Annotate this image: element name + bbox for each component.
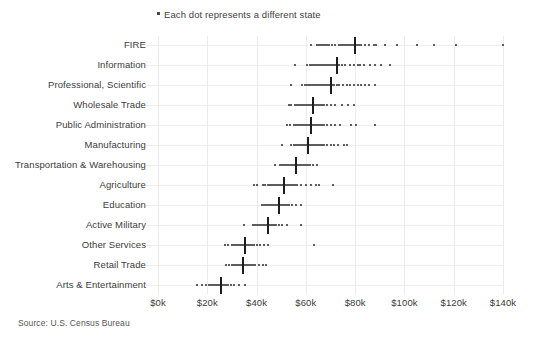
x-axis-label: $140k	[490, 297, 516, 308]
x-gridline	[503, 36, 504, 294]
data-point	[433, 44, 435, 46]
y-axis-label: Public Administration	[0, 119, 146, 130]
median-marker	[310, 117, 312, 134]
y-axis-label: Wholesale Trade	[0, 99, 146, 110]
x-axis-label: $80k	[345, 297, 366, 308]
data-point	[265, 264, 267, 266]
data-point	[230, 284, 232, 286]
data-point	[364, 44, 366, 46]
data-point	[313, 244, 315, 246]
data-point	[254, 264, 256, 266]
data-point	[333, 144, 335, 146]
data-point	[355, 124, 357, 126]
data-point	[309, 164, 311, 166]
median-marker	[312, 97, 314, 114]
data-point	[349, 84, 351, 86]
data-point	[291, 204, 293, 206]
data-point	[300, 204, 302, 206]
median-marker	[330, 77, 332, 94]
data-point	[331, 44, 333, 46]
y-axis-label: FIRE	[0, 39, 146, 50]
data-point	[267, 244, 269, 246]
data-point	[310, 44, 312, 46]
data-point	[262, 264, 264, 266]
data-point	[360, 44, 362, 46]
median-marker	[278, 197, 280, 214]
data-point	[330, 144, 332, 146]
y-gridline-stub	[146, 265, 158, 266]
dot-marker-icon	[157, 12, 160, 15]
data-point	[364, 84, 366, 86]
x-axis-label: $100k	[391, 297, 417, 308]
data-point	[201, 284, 203, 286]
data-point	[341, 64, 343, 66]
data-point	[290, 84, 292, 86]
data-point	[286, 224, 288, 226]
data-point	[328, 44, 330, 46]
data-point	[326, 104, 328, 106]
data-point	[346, 144, 348, 146]
x-axis-label: $120k	[441, 297, 467, 308]
y-gridline	[158, 185, 503, 186]
y-gridline-stub	[146, 45, 158, 46]
data-point	[337, 144, 339, 146]
data-point	[256, 244, 258, 246]
y-axis-label: Agriculture	[0, 179, 146, 190]
data-point	[300, 184, 302, 186]
data-point	[296, 184, 298, 186]
y-gridline-stub	[146, 165, 158, 166]
y-gridline-stub	[146, 225, 158, 226]
median-marker	[267, 217, 269, 234]
data-point	[396, 44, 398, 46]
data-point	[243, 224, 245, 226]
data-point	[389, 64, 391, 66]
y-axis-labels: FIREInformationProfessional, ScientificW…	[0, 36, 146, 294]
y-gridline-stub	[146, 205, 158, 206]
y-axis-label: Professional, Scientific	[0, 79, 146, 90]
plot-area	[158, 36, 503, 294]
data-point	[380, 64, 382, 66]
data-point	[334, 44, 336, 46]
y-gridline-stub	[146, 285, 158, 286]
data-point	[224, 244, 226, 246]
data-point	[374, 124, 376, 126]
data-point	[338, 84, 340, 86]
y-gridline	[158, 265, 503, 266]
x-axis-labels: $0k$20k$40k$60k$80k$100k$120k$140k	[158, 297, 503, 313]
data-point	[330, 124, 332, 126]
y-gridline	[158, 165, 503, 166]
data-point	[363, 64, 365, 66]
data-point	[330, 104, 332, 106]
x-axis-label: $40k	[246, 297, 267, 308]
data-point	[225, 264, 227, 266]
median-marker	[242, 257, 244, 274]
y-gridline-stub	[146, 245, 158, 246]
data-point	[233, 284, 235, 286]
data-point	[326, 124, 328, 126]
data-point	[374, 64, 376, 66]
data-point	[341, 104, 343, 106]
y-gridline-stub	[146, 145, 158, 146]
data-point	[227, 244, 229, 246]
data-point	[318, 184, 320, 186]
data-point	[290, 104, 292, 106]
x-axis-label: $20k	[197, 297, 218, 308]
data-point	[196, 284, 198, 286]
data-point	[346, 84, 348, 86]
data-point	[281, 144, 283, 146]
y-gridline	[158, 205, 503, 206]
median-marker	[307, 137, 309, 154]
y-axis-label: Retail Trade	[0, 259, 146, 270]
y-gridline-stub	[146, 185, 158, 186]
x-axis-label: $60k	[295, 297, 316, 308]
data-point	[360, 84, 362, 86]
y-gridline-stub	[146, 65, 158, 66]
data-point	[315, 184, 317, 186]
data-point	[289, 124, 291, 126]
median-marker	[354, 37, 356, 54]
y-gridline	[158, 245, 503, 246]
y-axis-label: Arts & Entertainment	[0, 279, 146, 290]
y-axis-label: Information	[0, 59, 146, 70]
dot-plot-chart: Each dot represents a different state FI…	[0, 0, 534, 337]
data-point	[256, 184, 258, 186]
